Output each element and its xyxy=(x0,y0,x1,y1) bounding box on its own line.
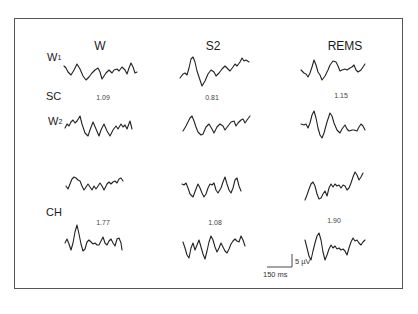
scale-bar xyxy=(267,254,292,267)
trace-group xyxy=(64,57,365,260)
trace-sc-w2-REMS xyxy=(301,111,365,138)
scale-bar-time-label: 150 ms xyxy=(263,271,288,279)
eeg-traces xyxy=(0,0,418,314)
trace-sc-w1-W xyxy=(64,63,137,80)
trace-sc-w1-REMS xyxy=(301,60,365,80)
trace-ch-ch-W xyxy=(65,225,122,251)
scale-bar-amplitude-label: 5 µV xyxy=(295,258,311,266)
trace-ch-w3-REMS xyxy=(305,172,363,200)
trace-ch-w3-W xyxy=(66,177,123,190)
trace-sc-w1-S2 xyxy=(180,57,249,86)
trace-sc-w2-S2 xyxy=(183,116,250,135)
trace-sc-w2-W xyxy=(65,116,132,136)
trace-ch-ch-REMS xyxy=(305,233,365,260)
trace-ch-ch-S2 xyxy=(183,236,245,259)
trace-ch-s2-S2 xyxy=(182,177,241,197)
eeg-figure: W S2 REMS W1 SC W2 CH 1.09 0.81 1.15 1.7… xyxy=(0,0,418,314)
